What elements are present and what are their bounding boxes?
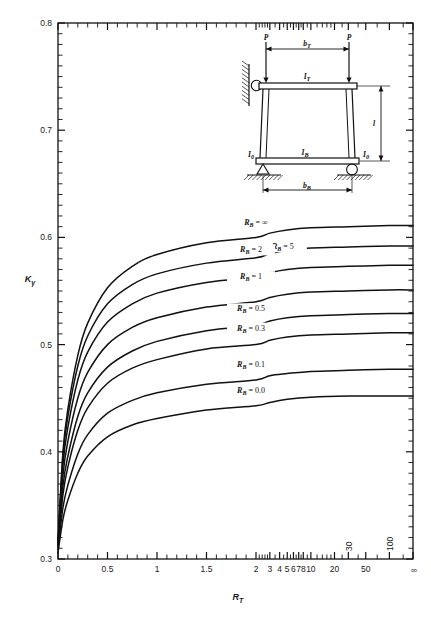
curve-label: RB = ∞ bbox=[232, 217, 280, 228]
svg-text:RB = 0.1: RB = 0.1 bbox=[236, 360, 265, 370]
x-tick-label: 3 bbox=[267, 564, 272, 574]
y-tick-label: 0.8 bbox=[40, 18, 52, 28]
x-tick-label: 1 bbox=[155, 564, 160, 574]
y-tick-label: 0.6 bbox=[40, 232, 52, 242]
svg-text:RB = 0.0: RB = 0.0 bbox=[236, 386, 265, 396]
x-tick-label-rotated: 100 bbox=[385, 537, 395, 551]
x-tick-label: 5 bbox=[285, 564, 290, 574]
load-label-left: P bbox=[264, 33, 269, 42]
svg-text:RB = ∞: RB = ∞ bbox=[243, 218, 268, 228]
y-tick-label: 0.3 bbox=[40, 554, 52, 564]
svg-text:RB = 0.3: RB = 0.3 bbox=[236, 324, 265, 334]
x-tick-label-infinity: ∞ bbox=[411, 565, 417, 575]
x-tick-label: 10 bbox=[306, 564, 316, 574]
curve-label: RB = 0.5 bbox=[227, 303, 275, 314]
svg-text:RB = 2: RB = 2 bbox=[239, 245, 262, 255]
figure-background bbox=[0, 0, 431, 624]
y-tick-label: 0.7 bbox=[40, 125, 52, 135]
curve-label: RB = 0.1 bbox=[227, 359, 275, 370]
x-tick-label: 2 bbox=[254, 564, 259, 574]
x-tick-label: 6 bbox=[291, 564, 296, 574]
svg-text:RB = 1: RB = 1 bbox=[239, 272, 262, 282]
y-tick-label: 0.4 bbox=[40, 447, 52, 457]
x-tick-label-rotated: 30 bbox=[344, 541, 354, 551]
load-label-right: P bbox=[347, 33, 352, 42]
svg-text:RB = 0.5: RB = 0.5 bbox=[236, 304, 265, 314]
curve-label: RB = 1 bbox=[227, 271, 275, 282]
x-tick-label: 50 bbox=[361, 564, 371, 574]
curve-label: RB = 0.3 bbox=[227, 323, 275, 334]
x-tick-label: 0.5 bbox=[102, 564, 114, 574]
curve-label: RB = 2 bbox=[227, 244, 275, 255]
x-tick-label: 1.5 bbox=[201, 564, 213, 574]
y-tick-label: 0.5 bbox=[40, 340, 52, 350]
x-tick-label: 0 bbox=[56, 564, 61, 574]
x-tick-label: 4 bbox=[277, 564, 282, 574]
x-tick-label: 20 bbox=[330, 564, 340, 574]
chart-figure: 0.30.40.50.60.70.8 00.511.52345678102050… bbox=[0, 0, 431, 624]
curve-label: RB = 0.0 bbox=[227, 385, 275, 396]
chart-page: 0.30.40.50.60.70.8 00.511.52345678102050… bbox=[0, 0, 431, 624]
